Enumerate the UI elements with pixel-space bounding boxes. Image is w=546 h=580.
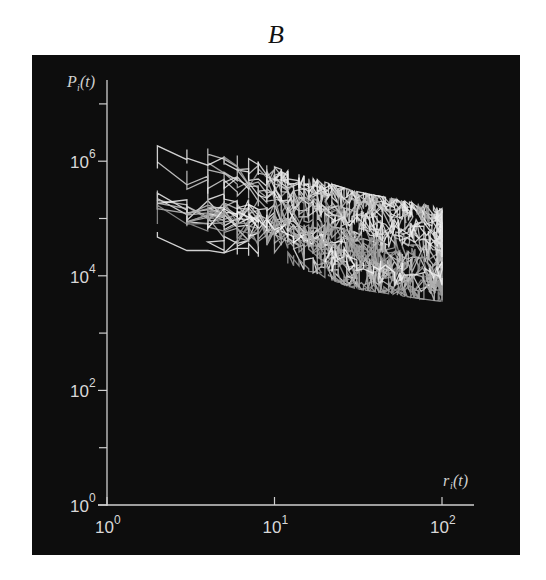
x-tick-label: 101 bbox=[263, 513, 289, 537]
svg-text:2: 2 bbox=[449, 513, 456, 527]
svg-text:1: 1 bbox=[282, 513, 289, 527]
x-axis-label: r i (t) bbox=[443, 472, 468, 491]
svg-text:r: r bbox=[443, 472, 450, 489]
svg-text:4: 4 bbox=[89, 262, 96, 276]
y-tick-label: 106 bbox=[70, 147, 96, 172]
svg-text:10: 10 bbox=[430, 518, 449, 537]
svg-text:10: 10 bbox=[263, 518, 282, 537]
svg-text:10: 10 bbox=[70, 268, 89, 287]
svg-text:(t): (t) bbox=[80, 73, 95, 91]
x-tick-label: 102 bbox=[430, 513, 456, 537]
svg-text:10: 10 bbox=[70, 153, 89, 172]
y-axis-label: P i (t) bbox=[66, 73, 95, 93]
svg-text:10: 10 bbox=[70, 382, 89, 401]
svg-text:0: 0 bbox=[114, 513, 121, 527]
chart-svg: 100101102100102104106 P i (t) r i (t) bbox=[0, 0, 546, 580]
trajectory-lines bbox=[157, 146, 442, 302]
y-tick-label: 104 bbox=[70, 262, 96, 287]
y-tick-label: 100 bbox=[70, 491, 96, 516]
trajectory-line bbox=[249, 159, 405, 213]
svg-text:0: 0 bbox=[89, 491, 96, 505]
svg-text:10: 10 bbox=[70, 497, 89, 516]
svg-text:2: 2 bbox=[89, 376, 96, 390]
svg-text:(t): (t) bbox=[453, 472, 468, 490]
y-tick-label: 102 bbox=[70, 376, 96, 401]
svg-text:6: 6 bbox=[89, 147, 96, 161]
x-tick-label: 100 bbox=[95, 513, 121, 537]
svg-text:P: P bbox=[66, 73, 77, 90]
svg-text:10: 10 bbox=[95, 518, 114, 537]
